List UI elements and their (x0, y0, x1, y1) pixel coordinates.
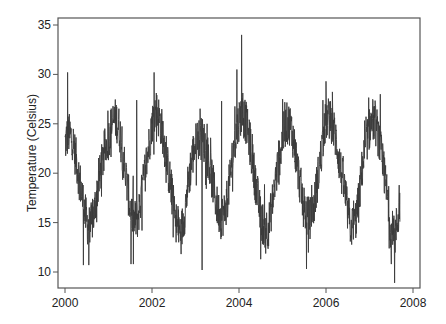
plot-frame (58, 18, 420, 288)
y-axis-title: Temperature (Celsius) (25, 94, 39, 212)
y-tick-label: 35 (38, 18, 52, 32)
x-axis: 20002002200420062008 (52, 288, 427, 310)
data-line-group (65, 35, 400, 283)
x-tick-label: 2002 (139, 296, 166, 310)
x-tick-label: 2008 (400, 296, 427, 310)
x-tick-label: 2006 (313, 296, 340, 310)
y-tick-label: 20 (38, 166, 52, 180)
temperature-series-line (65, 35, 400, 283)
x-tick-label: 2004 (226, 296, 253, 310)
y-tick-label: 10 (38, 265, 52, 279)
temperature-time-series-chart: 101520253035 20002002200420062008 Temper… (0, 0, 446, 324)
y-axis: 101520253035 (38, 18, 58, 279)
y-tick-label: 30 (38, 67, 52, 81)
y-tick-label: 15 (38, 216, 52, 230)
x-tick-label: 2000 (52, 296, 79, 310)
y-tick-label: 25 (38, 117, 52, 131)
